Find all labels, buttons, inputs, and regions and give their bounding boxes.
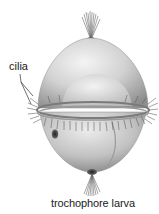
cilia-label: cilia: [9, 61, 28, 72]
apical-tuft-icon: [82, 11, 100, 40]
hyposphere-body: [40, 112, 146, 172]
bottom-tuft-icon: [84, 174, 100, 196]
trochophore-diagram: cilia trochophore larva: [0, 0, 159, 214]
figure-caption: trochophore larva: [51, 198, 135, 209]
cilia-leader-lines: [20, 74, 33, 104]
lateral-pore-icon: [52, 130, 58, 139]
larva-illustration: [0, 0, 159, 214]
